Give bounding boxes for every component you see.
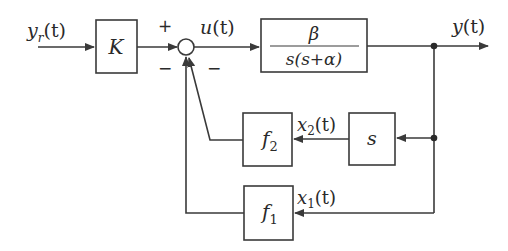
minus-sign-right: − [207, 58, 221, 78]
plus-sign: + [158, 16, 172, 36]
output-branch-dot [431, 43, 438, 50]
block-diagram: yr(t) K + − − u(t) β s(s+α) y(t) s x2(t)… [0, 0, 508, 251]
f1-label: f1 [260, 200, 278, 227]
reference-input-label: yr(t) [26, 19, 66, 45]
x2-signal-label: x2(t) [297, 114, 336, 138]
gain-label: K [108, 35, 125, 59]
summing-junction [178, 39, 194, 55]
x1-signal-label: x1(t) [297, 187, 336, 211]
f2-label: f2 [260, 127, 278, 154]
output-signal-label: y(t) [451, 15, 485, 37]
minus-sign-left: − [158, 58, 172, 78]
feedback-branch-dot [431, 135, 438, 142]
plant-numerator: β [308, 23, 319, 44]
plant-denominator: s(s+α) [286, 49, 342, 69]
differentiator-label: s [367, 127, 377, 149]
control-signal-label: u(t) [200, 16, 235, 38]
